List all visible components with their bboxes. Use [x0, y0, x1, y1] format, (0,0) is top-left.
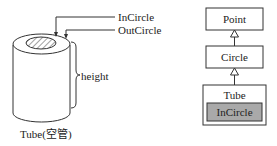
outcircle-leader	[64, 30, 115, 39]
outcircle-label: OutCircle	[118, 24, 161, 36]
incircle-leader	[54, 17, 115, 37]
tube-caption: Tube(空管)	[20, 127, 72, 141]
diagram-canvas: InCircle OutCircle height Tube(空管) Point…	[0, 0, 277, 146]
tube-cylinder	[13, 34, 70, 122]
incircle-label: InCircle	[118, 11, 154, 23]
class-point: Point	[206, 8, 263, 30]
class-point-label: Point	[223, 13, 246, 25]
class-tube-label: Tube	[223, 89, 245, 101]
inner-circle-hatched	[26, 37, 56, 49]
class-circle-label: Circle	[221, 51, 248, 63]
class-tube: Tube InCircle	[203, 85, 266, 125]
inherit-arrow-tube-circle	[231, 68, 239, 85]
inherit-arrow-circle-point	[231, 30, 239, 46]
height-brace	[71, 42, 80, 108]
class-incircle-label: InCircle	[216, 106, 252, 118]
height-label: height	[81, 70, 109, 82]
class-circle: Circle	[206, 46, 263, 68]
